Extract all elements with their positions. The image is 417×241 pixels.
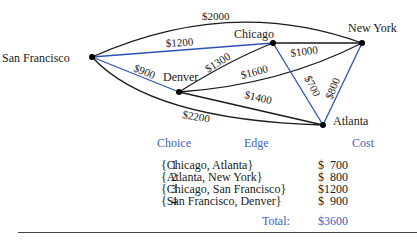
label-chi: Chicago [234, 27, 274, 41]
label-sf: San Francisco [2, 51, 70, 65]
label-den: Denver [163, 70, 198, 84]
node-den [176, 89, 182, 95]
header-cost: Cost [352, 136, 374, 151]
node-sf [89, 54, 95, 60]
divider [18, 232, 417, 233]
weight-sf-chi: $1200 [165, 36, 194, 49]
weight-sf-atl: $2200 [182, 108, 212, 125]
row-edge: {San Francisco, Denver} [161, 195, 282, 207]
weight-den-ny: $1600 [239, 62, 269, 81]
node-atl [320, 122, 326, 128]
weight-den-chi: $1300 [203, 50, 233, 75]
graph-diagram: San Francisco Chicago New York Denver At… [0, 0, 417, 150]
row-cost: $ 900 [318, 195, 348, 207]
weight-den-atl: $1400 [244, 88, 274, 106]
weight-ny-atl: $800 [323, 75, 343, 100]
node-ny [359, 40, 365, 46]
header-choice: Choice [157, 136, 191, 151]
weight-chi-ny: $1000 [290, 43, 319, 59]
total-label: Total: [262, 215, 290, 227]
label-ny: New York [348, 21, 397, 35]
weight-sf-ny: $2000 [202, 10, 230, 22]
header-edge: Edge [244, 136, 269, 151]
label-atl: Atlanta [333, 114, 369, 128]
total-value: $3600 [318, 215, 348, 227]
